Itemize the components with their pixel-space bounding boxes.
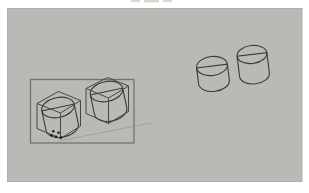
figure-page bbox=[0, 0, 309, 193]
viewport bbox=[0, 0, 309, 193]
cropped-caption-remnant bbox=[131, 0, 172, 2]
